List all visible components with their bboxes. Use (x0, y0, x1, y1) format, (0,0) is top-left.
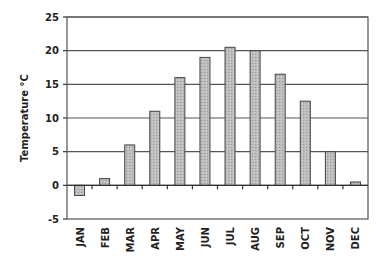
bar-nov (325, 152, 335, 186)
x-tick-label: MAY (175, 226, 186, 251)
bar-oct (300, 101, 310, 185)
bar-apr (150, 111, 160, 185)
gridlines (67, 17, 368, 185)
bar-jun (200, 57, 210, 185)
y-tick-label: 5 (52, 146, 59, 157)
bar-jan (75, 185, 85, 195)
bar-may (175, 78, 185, 186)
y-tick-labels: -50510152025 (45, 12, 59, 225)
y-tick-label: -5 (48, 214, 59, 225)
bars (75, 47, 361, 195)
y-tick-label: 25 (45, 12, 59, 23)
x-tick-label: JAN (75, 227, 86, 248)
temperature-bar-chart: -50510152025 JANFEBMARAPRMAYJUNJULAUGSEP… (0, 0, 386, 259)
y-tick-label: 20 (45, 45, 59, 56)
x-tick-label: JUL (225, 226, 236, 246)
bar-mar (125, 145, 135, 185)
x-tick-label: NOV (325, 227, 336, 252)
y-tick-label: 15 (45, 79, 59, 90)
y-axis-label: Temperature °C (19, 74, 30, 162)
x-tick-labels: JANFEBMARAPRMAYJUNJULAUGSEPOCTNOVDEC (75, 226, 362, 252)
x-tick-label: JUN (200, 227, 211, 248)
bar-feb (100, 179, 110, 186)
bar-jul (225, 47, 235, 185)
bar-aug (250, 51, 260, 186)
bar-sep (275, 74, 285, 185)
x-tick-label: MAR (125, 227, 136, 253)
y-tick-label: 0 (52, 180, 59, 191)
x-tick-label: SEP (275, 227, 286, 248)
y-tick-label: 10 (45, 113, 59, 124)
x-tick-label: OCT (300, 227, 311, 250)
x-tick-label: AUG (250, 227, 261, 251)
x-tick-label: APR (150, 227, 161, 250)
x-tick-label: DEC (350, 227, 361, 249)
x-tick-label: FEB (100, 227, 111, 248)
